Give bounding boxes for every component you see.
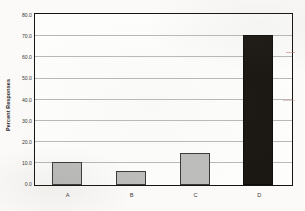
scan-artifact-mark-2: [283, 100, 295, 101]
y-axis-tick-label: 80.0: [10, 12, 32, 18]
y-axis-tick-label: 70.0: [10, 33, 32, 39]
bar-chart-figure: Percent Responses 80.070.060.050.040.030…: [0, 0, 305, 211]
y-axis-tick-labels: 80.070.060.050.040.030.020.010.00.0: [10, 0, 32, 211]
bar-c: [180, 153, 210, 185]
y-axis-tick-label: 50.0: [10, 75, 32, 81]
x-axis-tick-label: B: [115, 192, 149, 198]
y-axis-tick-label: 60.0: [10, 54, 32, 60]
y-axis-tick-label: 30.0: [10, 118, 32, 124]
x-axis-tick-label: A: [51, 192, 85, 198]
plot-inner: [35, 14, 292, 185]
x-axis-tick-label: C: [178, 192, 212, 198]
x-axis-tick-label: D: [242, 192, 276, 198]
plot-area: [34, 13, 293, 186]
bar-b: [116, 171, 146, 185]
bar-a: [52, 162, 82, 185]
y-axis-tick-label: 40.0: [10, 97, 32, 103]
scan-artifact-mark: [286, 52, 295, 53]
y-axis-tick-label: 0.0: [10, 181, 32, 187]
y-axis-tick-label: 20.0: [10, 139, 32, 145]
bar-d: [243, 35, 273, 185]
y-axis-tick-label: 10.0: [10, 160, 32, 166]
